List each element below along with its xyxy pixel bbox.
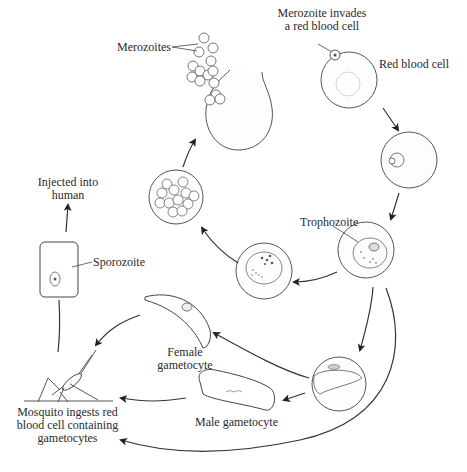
label-trophozoite: Trophozoite <box>300 216 358 229</box>
label-female-line2: gametocyte <box>150 359 220 372</box>
schizont-cell <box>236 243 292 299</box>
label-red-blood-cell: Red blood cell <box>379 58 449 71</box>
mosquito-illustration <box>24 350 113 402</box>
female-gametocyte-cell <box>145 295 211 348</box>
merozoite-invading-cell <box>318 44 377 108</box>
label-merozoites: Merozoites <box>117 41 171 54</box>
male-gametocyte-cell <box>199 370 275 411</box>
gametocyte-in-cell <box>312 357 366 411</box>
bursting-cell-merozoites <box>172 33 272 150</box>
label-mosquito-line3: gametocytes <box>10 432 125 445</box>
label-injected-line2: human <box>28 189 108 202</box>
label-merozoite-invades: Merozoite invades a red blood cell <box>262 7 382 33</box>
label-injected-into-human: Injected into human <box>28 176 108 202</box>
label-male-gametocyte: Male gametocyte <box>195 416 278 429</box>
label-merozoite-invades-line2: a red blood cell <box>262 20 382 33</box>
label-mosquito-ingests: Mosquito ingests red blood cell containi… <box>10 406 125 445</box>
sporozoite-cell <box>40 242 92 297</box>
segmented-schizont-cell <box>149 170 203 224</box>
trophozoite-cell <box>333 222 394 278</box>
ring-stage-cell <box>381 132 437 188</box>
label-female-gametocyte: Female gametocyte <box>150 346 220 372</box>
label-sporozoite: Sporozoite <box>93 256 145 269</box>
